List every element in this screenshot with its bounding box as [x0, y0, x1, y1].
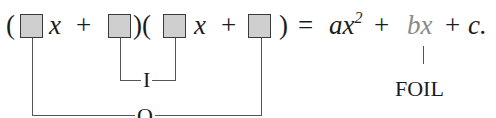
blank-box-3	[163, 14, 186, 38]
plus-sign-3: +	[374, 12, 389, 39]
outer-bracket-left	[32, 38, 33, 116]
variable-x-2: x	[194, 12, 206, 39]
term-ax-squared: ax2	[329, 12, 362, 39]
blank-box-4	[248, 14, 271, 38]
variable-x-1: x	[49, 12, 61, 39]
exponent: 2	[354, 9, 362, 26]
term-a: ax	[329, 10, 354, 40]
plus-sign-4: +	[445, 12, 460, 39]
foil-pointer-line	[423, 46, 424, 64]
plus-sign-1: +	[76, 12, 91, 39]
blank-box-1	[20, 14, 43, 38]
outer-label: O	[135, 105, 155, 118]
term-bx: bx	[407, 12, 432, 39]
inner-bracket-left	[120, 38, 121, 81]
close-paren: )	[279, 12, 288, 39]
blank-box-2	[108, 14, 131, 38]
foil-label: FOIL	[393, 78, 446, 100]
close-open-paren: )(	[133, 12, 151, 39]
term-c: c.	[468, 12, 487, 39]
outer-bracket-right	[261, 38, 262, 116]
open-paren: (	[6, 12, 15, 39]
equals-sign: =	[298, 12, 313, 39]
plus-sign-2: +	[221, 12, 236, 39]
inner-bracket-right	[175, 38, 176, 81]
inner-label: I	[141, 69, 152, 91]
